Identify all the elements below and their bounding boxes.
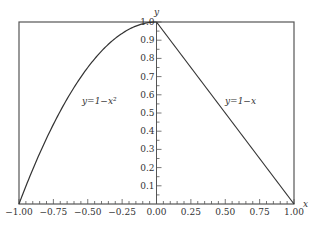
y-tick-label: 0.6 [140,90,155,100]
function-plot: −1.00−0.75−0.50−0.250.000.250.500.751.00… [0,0,315,228]
y-tick-label: 0.4 [140,126,155,136]
y-tick-label: 0.9 [140,35,155,45]
y-tick-label: 0.3 [140,144,155,154]
x-tick-label: 0.50 [215,207,235,217]
y-tick-label: 0.2 [140,163,154,173]
x-tick-label: −0.75 [40,207,68,217]
y-axis-label: y [153,7,160,17]
curve-label-parabola: y=1−x² [81,96,117,106]
y-tick-label: 0.7 [140,72,155,82]
curve-label-line: y=1−x [224,96,256,106]
x-tick-label: −0.50 [74,207,102,217]
x-tick-label: −1.00 [5,207,33,217]
x-axis-label: x [303,199,308,209]
parabola-curve [19,22,157,204]
y-tick-label: 0.8 [140,53,155,63]
x-tick-label: −0.25 [108,207,136,217]
y-tick-label: 0.1 [140,181,154,191]
y-axis: 0.10.20.30.40.50.60.70.80.91.0 [140,17,161,204]
linear-curve [157,22,295,204]
y-tick-label: 0.5 [140,108,155,118]
x-tick-label: 0.75 [250,207,270,217]
x-tick-label: 1.00 [284,207,304,217]
x-tick-label: 0.25 [181,207,201,217]
x-tick-label: 0.00 [146,207,166,217]
x-axis-ticks: −1.00−0.75−0.50−0.250.000.250.500.751.00 [5,199,304,217]
